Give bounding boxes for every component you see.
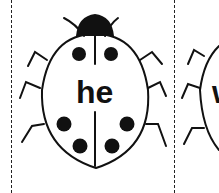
card-word-he: he [76, 76, 113, 108]
card-word-partial: w [212, 76, 219, 108]
